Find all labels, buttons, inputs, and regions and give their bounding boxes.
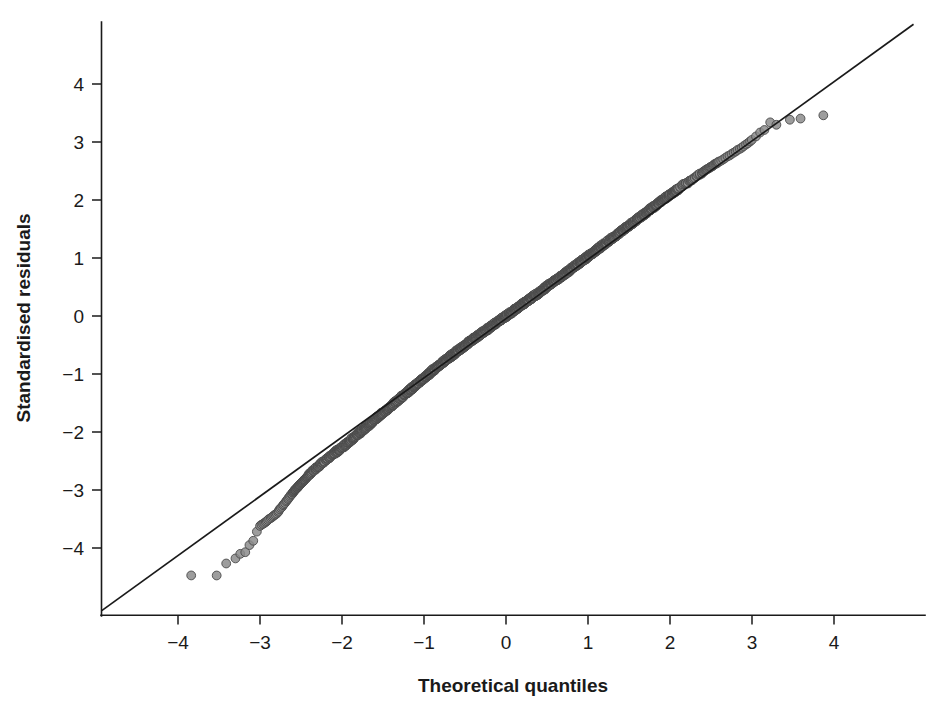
x-axis-title: Theoretical quantiles [418, 675, 608, 696]
y-axis-tick-label: −3 [62, 480, 84, 501]
y-axis-tick-label: 3 [73, 132, 84, 153]
qq-plot-canvas: −4−3−2−101234 −4−3−2−101234 Theoretical … [0, 0, 933, 716]
x-axis-tick-label: 1 [583, 632, 594, 653]
y-axis-tick-label: 0 [73, 306, 84, 327]
y-axis-title: Standardised residuals [13, 213, 34, 422]
y-axis-tick-label: −2 [62, 422, 84, 443]
y-axis-tick-label: 4 [73, 74, 84, 95]
y-axis-tick-label: −4 [62, 538, 84, 559]
data-point [819, 111, 828, 120]
data-point [222, 559, 231, 568]
data-point [796, 114, 805, 123]
x-axis-tick-label: 0 [501, 632, 512, 653]
x-axis-tick-label: 4 [829, 632, 840, 653]
data-point [187, 571, 196, 580]
x-axis-tick-label: −2 [331, 632, 353, 653]
x-axis-tick-label: 2 [665, 632, 676, 653]
y-axis-tick-label: 2 [73, 190, 84, 211]
x-axis-tick-label: −3 [249, 632, 271, 653]
figure-background [0, 0, 933, 716]
x-axis-tick-label: −4 [167, 632, 189, 653]
y-axis-tick-label: 1 [73, 248, 84, 269]
y-axis-tick-label: −1 [62, 364, 84, 385]
data-point [249, 536, 258, 545]
x-axis-tick-label: −1 [413, 632, 435, 653]
x-axis-tick-label: 3 [747, 632, 758, 653]
data-point [212, 571, 221, 580]
qq-plot-figure: −4−3−2−101234 −4−3−2−101234 Theoretical … [0, 0, 933, 716]
